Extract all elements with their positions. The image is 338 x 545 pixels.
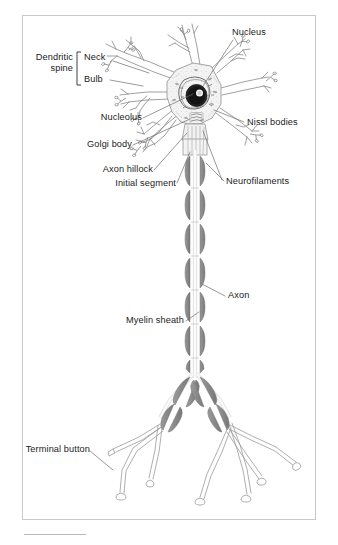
label-golgi-body: Golgi body: [40, 139, 132, 150]
terminal-branches: [113, 423, 296, 499]
label-neck: Neck: [84, 52, 105, 63]
label-dendritic-spine-line2: spine: [0, 63, 73, 74]
label-terminal-button: Terminal button: [10, 444, 90, 455]
label-initial-segment: Initial segment: [50, 178, 176, 189]
leader-neurofilaments-1: [203, 131, 222, 180]
leader-neurofilaments-2: [206, 163, 224, 181]
label-nucleus: Nucleus: [232, 27, 266, 38]
label-myelin-sheath: Myelin sheath: [88, 315, 184, 326]
dendritic-spine-bracket: [77, 52, 81, 85]
terminal-button: [108, 449, 115, 456]
label-bulb: Bulb: [84, 74, 103, 85]
leader-hillock: [154, 133, 187, 170]
label-nissl-bodies: Nissl bodies: [247, 117, 298, 128]
label-axon-hillock: Axon hillock: [40, 164, 153, 175]
axon-terminal-branches: [160, 374, 230, 432]
label-neurofilaments: Neurofilaments: [226, 176, 289, 187]
leader-axon: [202, 284, 225, 296]
leader-bulb: [110, 80, 143, 86]
label-dendritic-spine-line1: Dendritic: [0, 52, 73, 63]
neuron-figure: Dendritic spine Neck Bulb Nucleus Nucleo…: [0, 0, 338, 545]
label-dendritic-spine: Dendritic spine: [0, 52, 73, 74]
neuron-diagram: [0, 0, 338, 545]
label-axon: Axon: [228, 290, 249, 301]
label-nucleolus: Nucleolus: [56, 112, 142, 123]
leader-nissl: [214, 110, 244, 122]
caption-rule: [24, 534, 86, 535]
